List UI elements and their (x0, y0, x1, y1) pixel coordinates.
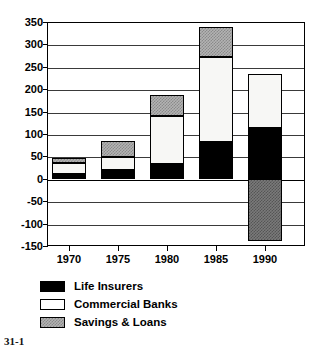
x-tick-mark (69, 246, 70, 251)
chart-legend: Life Insurers Commercial Banks Savings &… (40, 278, 240, 332)
y-tick-label: 200 (1, 84, 43, 95)
bar-group-1990[interactable] (248, 22, 282, 246)
y-tick-label: 100 (1, 129, 43, 140)
legend-label: Life Insurers (74, 280, 143, 292)
legend-item-commercial-banks[interactable]: Commercial Banks (40, 296, 240, 312)
y-tick-label: 250 (1, 62, 43, 73)
y-tick-label: 0 (1, 174, 43, 185)
x-tick-label-1980: 1980 (142, 253, 192, 265)
bar-segment-life-insurers-1985[interactable] (199, 142, 233, 179)
bar-segment-life-insurers-1970[interactable] (52, 174, 86, 179)
bar-segment-commercial-banks-1990[interactable] (248, 74, 282, 129)
bar-group-1985[interactable] (199, 22, 233, 246)
y-tick-label: -100 (1, 219, 43, 230)
legend-label: Commercial Banks (74, 298, 178, 310)
figure-caption: 31-1 (4, 336, 24, 345)
bar-segment-commercial-banks-1970[interactable] (52, 163, 86, 175)
bar-group-1980[interactable] (150, 22, 184, 246)
bar-segment-savings-loans-1975[interactable] (101, 141, 135, 157)
black-swatch-icon (40, 281, 65, 292)
y-tick-label: -50 (1, 196, 43, 207)
x-tick-mark (118, 246, 119, 251)
y-tick-label: 50 (1, 151, 43, 162)
legend-label: Savings & Loans (74, 316, 167, 328)
figure: 350 300 250 200 150 100 50 0 -50 -100 -1… (0, 0, 328, 349)
y-tick-label: -150 (1, 241, 43, 252)
x-tick-mark (167, 246, 168, 251)
y-tick-mark (43, 246, 48, 247)
x-tick-label-1990: 1990 (240, 253, 290, 265)
bar-segment-commercial-banks-1985[interactable] (199, 57, 233, 142)
bar-segment-life-insurers-1980[interactable] (150, 164, 184, 179)
x-tick-mark (216, 246, 217, 251)
gray-hatch-swatch-icon (40, 317, 65, 328)
x-tick-label-1970: 1970 (44, 253, 94, 265)
bar-group-1975[interactable] (101, 22, 135, 246)
x-tick-mark (265, 246, 266, 251)
legend-item-life-insurers[interactable]: Life Insurers (40, 278, 240, 294)
bar-segment-life-insurers-1975[interactable] (101, 170, 135, 179)
x-tick-label-1975: 1975 (93, 253, 143, 265)
bar-segment-commercial-banks-1980[interactable] (150, 116, 184, 164)
bar-segment-savings-loans-1990[interactable] (248, 179, 282, 242)
x-tick-label-1985: 1985 (191, 253, 241, 265)
bar-segment-life-insurers-1990[interactable] (248, 128, 282, 179)
y-tick-label: 350 (1, 17, 43, 28)
bar-group-1970[interactable] (52, 22, 86, 246)
y-axis: 350 300 250 200 150 100 50 0 -50 -100 -1… (0, 22, 43, 246)
legend-item-savings-loans[interactable]: Savings & Loans (40, 314, 240, 330)
bar-segment-savings-loans-1980[interactable] (150, 95, 184, 116)
y-tick-label: 300 (1, 39, 43, 50)
y-tick-label: 150 (1, 107, 43, 118)
white-swatch-icon (40, 299, 65, 310)
bar-series-container (47, 22, 305, 246)
bar-segment-commercial-banks-1975[interactable] (101, 157, 135, 170)
bar-segment-savings-loans-1985[interactable] (199, 27, 233, 58)
